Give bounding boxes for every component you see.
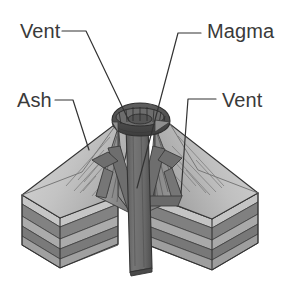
crater-rim [112,103,170,136]
label-vent-right: Vent [222,89,263,111]
label-vent-top: Vent [20,20,61,42]
leader-line-ash [55,100,89,150]
volcano-illustration: Vent Magma Ash Vent [0,0,285,295]
label-magma: Magma [207,20,275,42]
label-ash: Ash [17,89,52,111]
volcano-diagram: Vent Magma Ash Vent [0,0,285,295]
leader-line-vent-top [62,31,129,121]
